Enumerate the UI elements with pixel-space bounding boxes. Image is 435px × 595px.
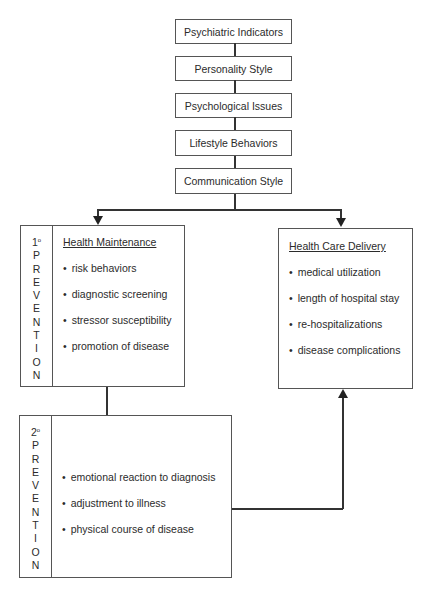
arrow-down-icon bbox=[93, 216, 103, 225]
connector-line bbox=[234, 156, 236, 168]
primary-prevention-box: 1o P R E V E N T I O N Health Maintenanc… bbox=[20, 225, 185, 387]
letter: N bbox=[33, 316, 41, 329]
connector-line bbox=[106, 387, 108, 416]
secondary-prevention-label: 2o P R E V E N T I O N bbox=[20, 416, 52, 577]
secondary-prevention-box: 2o P R E V E N T I O N emotional reactio… bbox=[19, 415, 232, 578]
letter: V bbox=[32, 479, 39, 492]
letter: O bbox=[32, 356, 40, 369]
box-communication-style: Communication Style bbox=[175, 168, 292, 194]
connector-line bbox=[234, 194, 236, 210]
list-item: re-hospitalizations bbox=[289, 318, 412, 330]
health-care-delivery-box: Health Care Delivery medical utilization… bbox=[278, 228, 413, 389]
letter: N bbox=[33, 369, 41, 382]
list-item: length of hospital stay bbox=[289, 292, 412, 304]
letter: P bbox=[33, 249, 40, 262]
letter: I bbox=[35, 342, 38, 355]
connector-line bbox=[342, 397, 344, 509]
arrow-down-icon bbox=[336, 218, 346, 227]
letter: V bbox=[33, 289, 40, 302]
letter: N bbox=[32, 559, 40, 572]
box-personality-style: Personality Style bbox=[175, 56, 292, 81]
secondary-prevention-content: emotional reaction to diagnosis adjustme… bbox=[52, 416, 231, 577]
list-item: adjustment to illness bbox=[62, 497, 231, 509]
letter: R bbox=[32, 453, 40, 466]
box-label: Psychological Issues bbox=[185, 100, 282, 112]
list-item: physical course of disease bbox=[62, 523, 231, 535]
ordinal: 1o bbox=[32, 236, 41, 249]
letter: E bbox=[33, 302, 40, 315]
arrow-up-icon bbox=[338, 389, 348, 398]
letter: E bbox=[32, 466, 39, 479]
connector-line bbox=[232, 508, 343, 510]
letter: I bbox=[34, 532, 37, 545]
health-maintenance-content: Health Maintenance risk behaviors diagno… bbox=[53, 226, 184, 386]
list-item: promotion of disease bbox=[63, 340, 184, 352]
list-item: diagnostic screening bbox=[63, 288, 184, 300]
box-label: Lifestyle Behaviors bbox=[189, 137, 277, 149]
letter: E bbox=[32, 492, 39, 505]
list-item: medical utilization bbox=[289, 266, 412, 278]
letter: O bbox=[31, 546, 39, 559]
connector-line bbox=[234, 117, 236, 130]
connector-line bbox=[234, 80, 236, 93]
box-lifestyle-behaviors: Lifestyle Behaviors bbox=[175, 130, 292, 156]
health-maintenance-heading: Health Maintenance bbox=[63, 236, 184, 248]
letter: N bbox=[32, 506, 40, 519]
ordinal: 2o bbox=[31, 426, 40, 439]
box-label: Psychiatric Indicators bbox=[184, 26, 283, 38]
split-line bbox=[97, 209, 341, 211]
letter: T bbox=[32, 519, 38, 532]
letter: E bbox=[33, 276, 40, 289]
letter: P bbox=[32, 439, 39, 452]
box-label: Communication Style bbox=[184, 175, 283, 187]
connector-line bbox=[234, 43, 236, 56]
list-item: emotional reaction to diagnosis bbox=[62, 471, 231, 483]
box-label: Personality Style bbox=[194, 63, 272, 75]
list-item: disease complications bbox=[289, 344, 412, 356]
box-psychiatric-indicators: Psychiatric Indicators bbox=[175, 19, 292, 44]
primary-prevention-label: 1o P R E V E N T I O N bbox=[21, 226, 53, 386]
health-care-delivery-heading: Health Care Delivery bbox=[289, 240, 412, 252]
box-psychological-issues: Psychological Issues bbox=[175, 93, 292, 118]
letter: R bbox=[33, 263, 41, 276]
health-care-delivery-content: Health Care Delivery medical utilization… bbox=[279, 229, 412, 388]
list-item: stressor susceptibility bbox=[63, 314, 184, 326]
letter: T bbox=[33, 329, 39, 342]
list-item: risk behaviors bbox=[63, 262, 184, 274]
